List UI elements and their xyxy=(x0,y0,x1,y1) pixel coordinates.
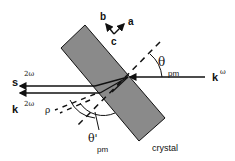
k-omega-label: k xyxy=(212,71,219,83)
axis-b-label: b xyxy=(100,11,106,22)
s-2omega-superscript: 2ω xyxy=(24,70,34,78)
s-2omega-label: s xyxy=(12,76,18,88)
phase-matching-diagram: b a c k ω θ pm s 2ω k 2ω ρ θ' pm crystal xyxy=(0,0,235,161)
theta-pm-prime-subscript: pm xyxy=(97,145,108,154)
construction-lines xyxy=(55,94,95,113)
theta-pm-prime-symbol: θ' xyxy=(88,132,98,145)
axis-a-label: a xyxy=(128,16,134,27)
theta-pm-symbol: θ xyxy=(158,55,165,69)
theta-pm-subscript: pm xyxy=(168,69,179,78)
k-2omega-superscript: 2ω xyxy=(24,100,34,108)
crystal-label: crystal xyxy=(152,143,178,153)
crystal-axes-icon xyxy=(106,24,124,34)
axis-c-label: c xyxy=(111,36,117,47)
k-omega-superscript: ω xyxy=(220,68,226,76)
rho-label: ρ xyxy=(45,105,50,115)
k-2omega-label: k xyxy=(12,103,19,115)
